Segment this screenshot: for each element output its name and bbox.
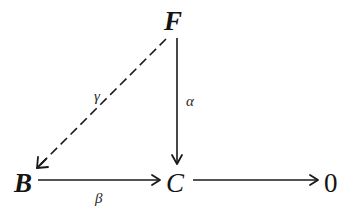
edge-beta-label: β (94, 190, 103, 206)
edge-alpha-label: α (186, 93, 195, 109)
edge-gamma (37, 39, 166, 168)
edge-gamma-line (40, 39, 166, 165)
node-zero: 0 (324, 168, 338, 198)
edge-beta (38, 175, 160, 185)
node-B: B (13, 168, 32, 198)
edge-gamma-label: γ (94, 88, 101, 104)
edge-c-to-zero (193, 175, 318, 185)
node-C: C (166, 168, 185, 198)
commutative-diagram: F B C 0 γ α β (0, 0, 354, 210)
edge-alpha (172, 38, 182, 164)
node-F: F (163, 6, 182, 36)
